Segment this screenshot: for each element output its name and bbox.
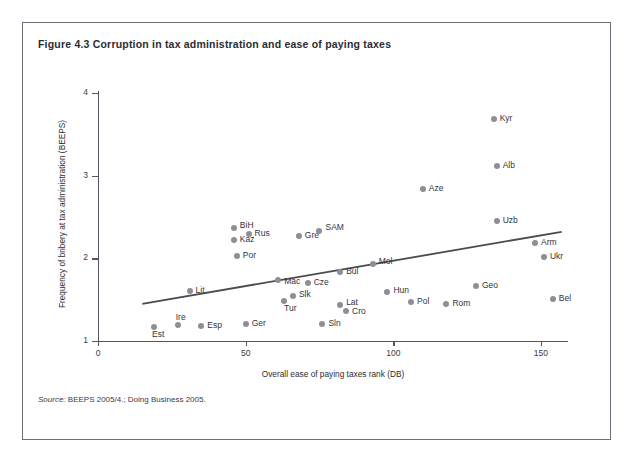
data-point-label: Bel (559, 293, 571, 303)
data-point (234, 253, 240, 259)
x-tick-150 (541, 341, 542, 346)
data-point (198, 323, 204, 329)
data-point (343, 308, 349, 314)
data-point-label: Geo (482, 280, 498, 290)
data-point-label: Sln (328, 318, 340, 328)
y-tick-label-3: 3 (66, 170, 88, 180)
data-point (337, 302, 343, 308)
x-axis-title: Overall ease of paying taxes rank (DB) (98, 369, 568, 379)
y-tick-4 (92, 93, 98, 94)
data-point-label: Rus (255, 228, 270, 238)
data-point-label: Kyr (500, 113, 513, 123)
y-tick-label-1: 1 (66, 335, 88, 345)
data-point (246, 231, 252, 237)
data-point (541, 254, 547, 260)
data-point-label: Mol (379, 256, 393, 266)
data-point-label: Arm (541, 237, 557, 247)
data-point-label: SAM (325, 222, 343, 232)
data-point (532, 240, 538, 246)
data-point (384, 289, 390, 295)
data-point-label: Ukr (550, 251, 563, 261)
data-point (316, 228, 322, 234)
data-point (550, 296, 556, 302)
y-tick-label-4: 4 (66, 87, 88, 97)
data-point-label: Pol (417, 296, 429, 306)
y-axis-title: Frequency of bribery at tax administrati… (57, 89, 67, 339)
data-point-label: Hun (393, 285, 409, 295)
data-point (473, 283, 479, 289)
data-point-label: Ger (252, 318, 266, 328)
y-tick-3 (92, 176, 98, 177)
data-point-label: Lat (346, 297, 358, 307)
data-point (491, 116, 497, 122)
data-point (243, 321, 249, 327)
data-point-label: Alb (503, 160, 515, 170)
x-tick-label-150: 150 (526, 348, 556, 358)
data-point-label: BiH (240, 220, 254, 230)
x-tick-50 (246, 341, 247, 346)
data-point-label: Aze (429, 183, 444, 193)
data-point (420, 186, 426, 192)
x-tick-0 (98, 341, 99, 346)
data-point (296, 233, 302, 239)
data-point (337, 269, 343, 275)
data-point-label: Cro (352, 306, 366, 316)
data-point-label: Esp (207, 320, 222, 330)
x-tick-100 (393, 341, 394, 346)
data-point (494, 163, 500, 169)
x-axis-line (98, 341, 568, 342)
data-point-label: Tur (284, 303, 296, 313)
data-point (305, 280, 311, 286)
y-tick-label-2: 2 (66, 252, 88, 262)
x-tick-label-50: 50 (231, 348, 261, 358)
data-point (231, 225, 237, 231)
source-label: Source: (38, 395, 66, 404)
data-point (408, 299, 414, 305)
data-point (370, 261, 376, 267)
y-axis-line (98, 91, 99, 342)
source-text: BEEPS 2005/4.; Doing Business 2005. (66, 395, 206, 404)
x-tick-label-0: 0 (83, 348, 113, 358)
source-note: Source: BEEPS 2005/4.; Doing Business 20… (38, 395, 206, 404)
data-point-label: Est (152, 329, 164, 339)
data-point (275, 277, 281, 283)
data-point-label: Lit (196, 285, 205, 295)
y-tick-2 (92, 258, 98, 259)
data-point (443, 301, 449, 307)
x-tick-label-100: 100 (378, 348, 408, 358)
data-point-label: Cze (314, 277, 329, 287)
data-point-label: Por (243, 250, 256, 260)
data-point (187, 288, 193, 294)
data-point (319, 321, 325, 327)
data-point (494, 218, 500, 224)
data-point-label: Slk (299, 289, 311, 299)
data-point-label: Uzb (503, 215, 518, 225)
data-point-label: Rom (452, 298, 470, 308)
data-point (175, 322, 181, 328)
data-point-label: Ire (176, 312, 186, 322)
figure-panel: Figure 4.3 Corruption in tax administrat… (22, 22, 611, 440)
data-point-label: Mac (284, 276, 300, 286)
data-point (290, 293, 296, 299)
scatter-plot: Frequency of bribery at tax administrati… (23, 23, 612, 441)
data-point-label: Bul (346, 266, 358, 276)
data-point (231, 237, 237, 243)
